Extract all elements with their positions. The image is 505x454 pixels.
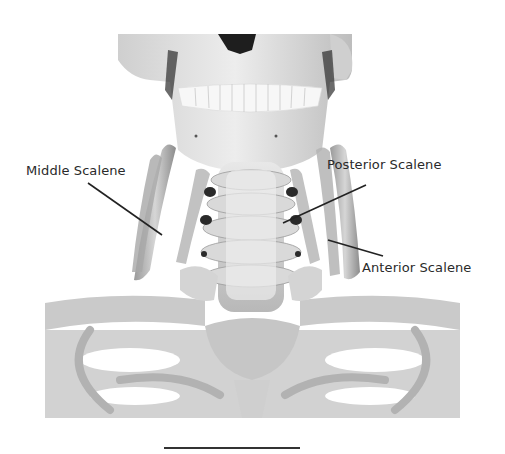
anatomy-illustration: [0, 0, 505, 454]
label-anterior-scalene: Anterior Scalene: [362, 260, 471, 275]
label-middle-scalene: Middle Scalene: [26, 163, 126, 178]
label-posterior-scalene: Posterior Scalene: [327, 157, 442, 172]
